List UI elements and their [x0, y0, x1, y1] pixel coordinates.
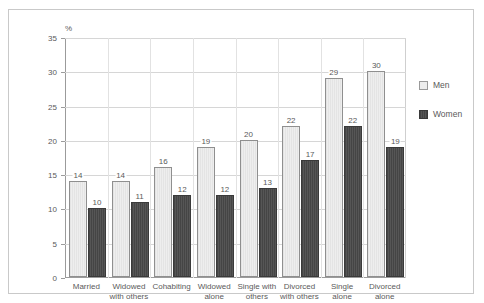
legend-label-men: Men: [433, 80, 450, 90]
bar-value-label: 13: [262, 178, 273, 187]
bar-men[interactable]: 16: [154, 167, 172, 277]
bar-women[interactable]: 12: [216, 195, 234, 277]
y-tick-label: 0: [53, 274, 57, 283]
x-axis-label: Divorced with others: [278, 282, 321, 301]
bar-value-label: 22: [286, 116, 297, 125]
y-tick-label: 30: [48, 68, 57, 77]
bar-women[interactable]: 17: [301, 160, 319, 277]
bar-men[interactable]: 22: [282, 126, 300, 277]
bar-value-label: 14: [115, 171, 126, 180]
bar-value-label: 20: [243, 130, 254, 139]
bar-group: 1912: [193, 38, 236, 277]
bar-women[interactable]: 12: [173, 195, 191, 277]
x-axis-label: Married: [65, 282, 108, 292]
y-tick-label: 15: [48, 171, 57, 180]
x-axis-label: Widowed with others: [108, 282, 151, 301]
bar-men[interactable]: 30: [367, 71, 385, 277]
bar-men[interactable]: 14: [112, 181, 130, 277]
bar-group: 2013: [236, 38, 279, 277]
legend-item-men: Men: [419, 80, 479, 90]
legend-swatch-women-icon: [419, 110, 428, 119]
legend-item-women: Women: [419, 109, 479, 119]
bar-group: 2922: [321, 38, 364, 277]
bar-women[interactable]: 19: [386, 147, 404, 277]
x-axis-label: Widowed alone: [193, 282, 236, 301]
y-tick-label: 35: [48, 34, 57, 43]
bar-value-label: 12: [219, 185, 230, 194]
bar-men[interactable]: 19: [197, 147, 215, 277]
y-tick-label: 10: [48, 205, 57, 214]
bar-group: 1411: [108, 38, 151, 277]
bar-men[interactable]: 14: [69, 181, 87, 277]
bar-women[interactable]: 11: [131, 202, 149, 277]
x-axis-label: Divorced alone: [363, 282, 406, 301]
bar-value-label: 19: [200, 137, 211, 146]
x-axis-label: Cohabiting: [150, 282, 193, 292]
bar-women[interactable]: 13: [259, 188, 277, 277]
plot-area: 05101520253035 1410141116121912201322172…: [65, 38, 406, 278]
bar-women[interactable]: 22: [344, 126, 362, 277]
x-axis-labels: MarriedWidowed with othersCohabitingWido…: [65, 282, 406, 303]
x-axis-label: Single alone: [321, 282, 364, 301]
legend-label-women: Women: [433, 109, 462, 119]
bar-group: 3019: [363, 38, 406, 277]
bar-women[interactable]: 10: [88, 208, 106, 277]
bar-group: 1612: [150, 38, 193, 277]
bar-value-label: 10: [92, 198, 103, 207]
chart-legend: Men Women: [419, 80, 479, 138]
y-tick-label: 5: [53, 239, 57, 248]
legend-swatch-men-icon: [419, 81, 428, 90]
bar-value-label: 22: [347, 116, 358, 125]
y-tick-label: 20: [48, 136, 57, 145]
y-tick-label: 25: [48, 102, 57, 111]
x-axis-label: Single with others: [236, 282, 279, 301]
bar-value-label: 11: [134, 192, 144, 201]
bar-value-label: 29: [328, 68, 339, 77]
y-tick-mark: [61, 278, 65, 279]
bar-value-label: 14: [73, 171, 84, 180]
bar-value-label: 16: [158, 157, 169, 166]
bar-value-label: 17: [305, 150, 316, 159]
bar-men[interactable]: 20: [240, 140, 258, 277]
bar-group: 1410: [65, 38, 108, 277]
bar-men[interactable]: 29: [325, 78, 343, 277]
chart-figure: % 05101520253035 14101411161219122013221…: [8, 9, 474, 294]
bar-group: 2217: [278, 38, 321, 277]
bar-value-label: 19: [390, 137, 401, 146]
y-axis-unit-label: %: [65, 24, 72, 33]
bar-value-label: 30: [371, 61, 382, 70]
bar-value-label: 12: [177, 185, 188, 194]
